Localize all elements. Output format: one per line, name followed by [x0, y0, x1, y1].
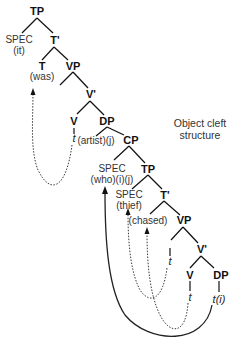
node-t-1-word: (was)	[30, 72, 54, 82]
diagram-title: Object cleft structure	[174, 117, 227, 141]
node-spec-3-word: (thief)	[116, 201, 142, 211]
arrow-v-to-t	[32, 93, 72, 185]
title-line-2: structure	[174, 129, 227, 141]
node-cp: CP	[123, 135, 138, 146]
node-spec-2-word: (who)(i)(j)	[91, 175, 134, 185]
node-spec-3: SPEC	[115, 190, 142, 200]
title-line-1: Object cleft	[174, 117, 227, 129]
node-v-1-trace: t	[72, 133, 75, 144]
node-vp-2: VP	[177, 215, 192, 226]
node-dp-2: DP	[213, 270, 228, 281]
node-dp-1: DP	[99, 116, 114, 127]
node-spec-1-word: (it)	[13, 46, 25, 56]
node-tbar-1: T'	[50, 35, 59, 46]
node-v-2: V	[186, 270, 193, 281]
node-v-1: V	[70, 116, 77, 127]
arrow-wh	[105, 192, 212, 336]
node-spec-1: SPEC	[5, 35, 32, 45]
node-vbar-1: V'	[86, 89, 96, 100]
node-dp-2-trace: t(i)	[213, 294, 226, 305]
node-tbar-2: T'	[160, 190, 169, 201]
node-v-2-trace: t	[188, 292, 191, 303]
node-t-2-word: (chased)	[129, 216, 168, 226]
node-dp-1-word: (artist)(j)	[77, 136, 114, 146]
node-vp-1: VP	[66, 61, 81, 72]
arrow-verb	[147, 232, 188, 329]
node-vbar-2: V'	[197, 244, 207, 255]
node-tp-2: TP	[141, 164, 155, 175]
node-tp-1: TP	[30, 6, 44, 17]
node-vp-2-trace: t	[168, 256, 171, 267]
node-spec-2: SPEC	[98, 164, 125, 174]
